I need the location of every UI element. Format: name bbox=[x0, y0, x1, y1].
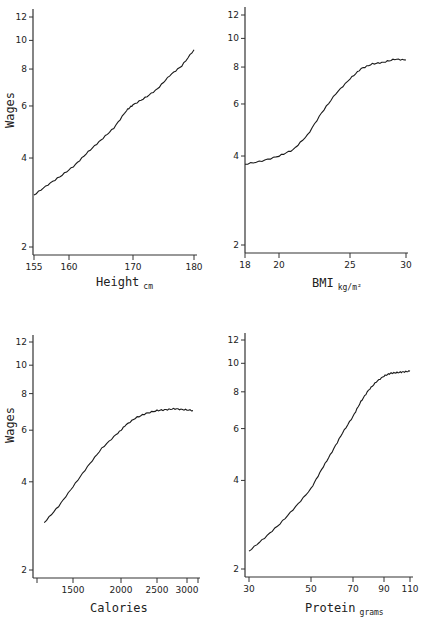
y-tick-label: 8 bbox=[21, 389, 27, 399]
x-tick-label: 110 bbox=[401, 584, 418, 594]
chart-panel-protein: 2468101230507090110Proteingrams bbox=[228, 333, 419, 617]
y-tick-label: 12 bbox=[16, 12, 27, 22]
x-tick-label: 2500 bbox=[146, 585, 169, 595]
chart-panel-calories: 246810121500200025003000CaloriesWages bbox=[3, 335, 200, 615]
y-tick-label: 6 bbox=[233, 99, 239, 109]
x-tick-label: 18 bbox=[239, 260, 251, 270]
y-tick-label: 8 bbox=[233, 387, 239, 397]
y-tick-label: 12 bbox=[16, 337, 27, 347]
x-tick-label: 90 bbox=[378, 584, 390, 594]
figure-canvas: 24681012155160170180HeightcmWages2468101… bbox=[0, 0, 423, 624]
y-tick-label: 6 bbox=[21, 101, 27, 111]
x-tick-label: 20 bbox=[273, 260, 285, 270]
x-tick-label: 25 bbox=[344, 260, 355, 270]
x-tick-label: 2000 bbox=[110, 585, 133, 595]
y-tick-label: 2 bbox=[233, 564, 239, 574]
x-axis-label: Proteingrams bbox=[305, 601, 384, 617]
data-curve bbox=[245, 59, 406, 164]
y-tick-label: 8 bbox=[233, 62, 239, 72]
x-axis-label: Heightcm bbox=[96, 275, 153, 291]
y-tick-label: 6 bbox=[21, 425, 27, 435]
x-tick-label: 3000 bbox=[176, 585, 199, 595]
y-tick-label: 2 bbox=[21, 565, 27, 575]
y-axis-label: Wages bbox=[3, 92, 17, 128]
x-tick-label: 180 bbox=[185, 262, 202, 272]
x-tick-label: 160 bbox=[60, 262, 77, 272]
y-tick-label: 8 bbox=[21, 64, 27, 74]
data-curve bbox=[44, 408, 193, 522]
y-tick-label: 4 bbox=[233, 151, 239, 161]
y-tick-label: 10 bbox=[228, 33, 240, 43]
y-tick-label: 12 bbox=[228, 10, 239, 20]
x-axis-label: BMIkg/m² bbox=[312, 276, 362, 292]
x-axis-label: Calories bbox=[90, 601, 148, 615]
data-curve bbox=[249, 371, 410, 551]
x-tick-label: 70 bbox=[347, 584, 359, 594]
y-tick-label: 10 bbox=[16, 360, 28, 370]
y-tick-label: 4 bbox=[233, 475, 239, 485]
y-tick-label: 12 bbox=[228, 335, 239, 345]
y-tick-label: 2 bbox=[233, 240, 239, 250]
x-tick-label: 155 bbox=[25, 262, 42, 272]
y-tick-label: 10 bbox=[16, 35, 28, 45]
x-tick-label: 30 bbox=[243, 584, 255, 594]
y-tick-label: 10 bbox=[228, 358, 240, 368]
x-tick-label: 170 bbox=[124, 262, 141, 272]
x-tick-label: 50 bbox=[305, 584, 317, 594]
y-tick-label: 4 bbox=[21, 153, 27, 163]
y-tick-label: 2 bbox=[21, 242, 27, 252]
data-curve bbox=[34, 50, 194, 195]
x-tick-label: 30 bbox=[400, 260, 412, 270]
x-tick-label: 1500 bbox=[62, 585, 85, 595]
y-axis-label: Wages bbox=[3, 407, 17, 443]
chart-panel-height: 24681012155160170180HeightcmWages bbox=[3, 9, 203, 291]
chart-panel-bmi: 2468101218202530BMIkg/m² bbox=[228, 7, 412, 292]
y-tick-label: 6 bbox=[233, 424, 239, 434]
y-tick-label: 4 bbox=[21, 477, 27, 487]
